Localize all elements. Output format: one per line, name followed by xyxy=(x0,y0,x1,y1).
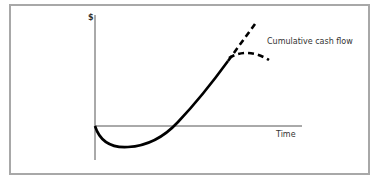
y-axis-label: $ xyxy=(88,13,94,22)
x-axis-label: Time xyxy=(276,130,296,139)
cash-flow-diagram xyxy=(0,0,379,187)
series-label: Cumulative cash flow xyxy=(267,37,353,46)
cash-flow-curve-solid xyxy=(95,61,228,147)
cash-flow-curve-dashed-down xyxy=(229,53,269,60)
